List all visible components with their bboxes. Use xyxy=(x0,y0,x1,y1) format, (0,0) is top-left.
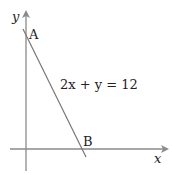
equation-label: 2x + y = 12 xyxy=(60,77,138,92)
y-axis-label: y xyxy=(11,9,20,24)
coordinate-diagram: y x A B 2x + y = 12 xyxy=(0,0,172,175)
point-b-label: B xyxy=(83,134,93,149)
point-a-label: A xyxy=(28,27,39,42)
equation-line xyxy=(23,29,86,157)
x-axis-label: x xyxy=(154,151,162,166)
